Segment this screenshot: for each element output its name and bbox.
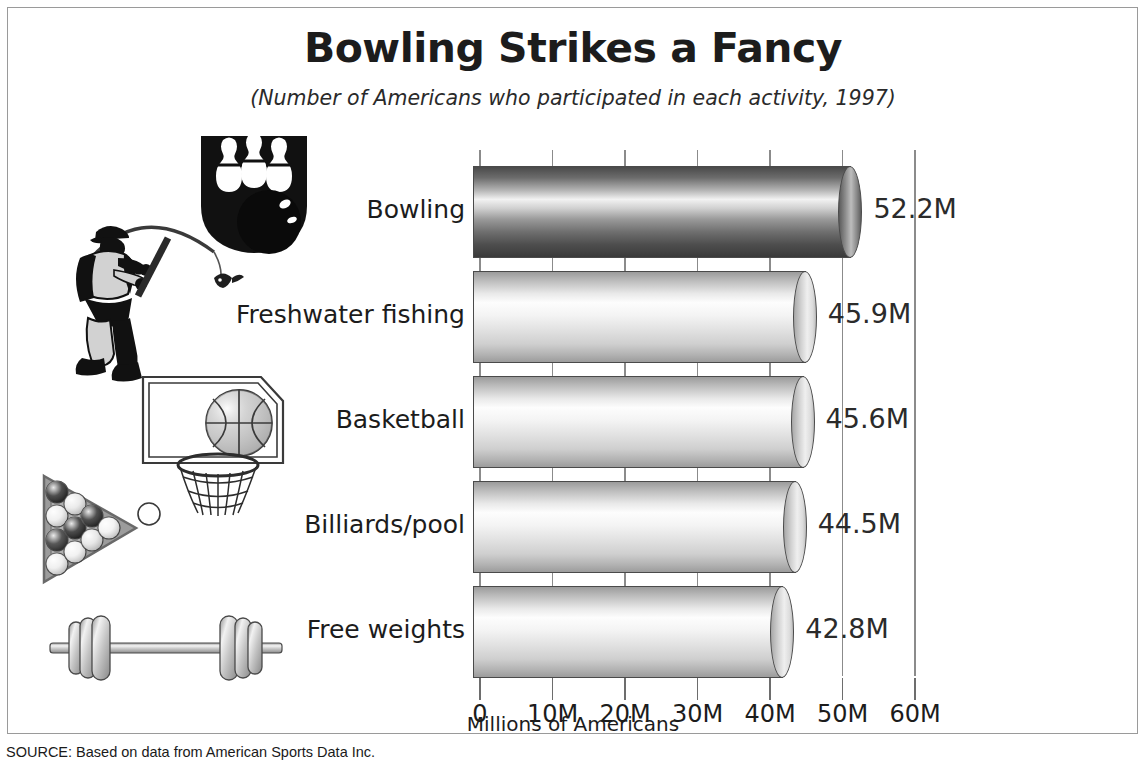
- tick-30M: [697, 678, 698, 700]
- billiards-rack-illustration: [24, 472, 169, 592]
- bar-body: [474, 482, 795, 572]
- tick-40M: [769, 678, 770, 700]
- fisherman-illustration: [18, 200, 248, 399]
- bar-billiards-pool[interactable]: [473, 481, 796, 573]
- value-label: 45.6M: [826, 403, 909, 434]
- value-label: 44.5M: [818, 508, 901, 539]
- source-note: SOURCE: Based on data from American Spor…: [6, 744, 375, 760]
- bar-body: [474, 377, 803, 467]
- value-label: 42.8M: [805, 613, 888, 644]
- tick-10M: [552, 678, 553, 700]
- bar-body: [474, 272, 805, 362]
- tick-20M: [624, 678, 625, 700]
- gridline-60M: [914, 150, 915, 676]
- bar-basketball[interactable]: [473, 376, 804, 468]
- tick-0: [479, 678, 480, 700]
- x-axis-label: Millions of Americans: [0, 712, 1146, 736]
- bar-end-cap: [783, 481, 807, 573]
- value-label: 45.9M: [828, 298, 911, 329]
- bar-body: [474, 587, 782, 677]
- bar-bowling[interactable]: [473, 166, 851, 258]
- bar-end-cap: [793, 271, 817, 363]
- bar-end-cap: [838, 166, 862, 258]
- tick-60M: [914, 678, 915, 700]
- bar-end-cap: [791, 376, 815, 468]
- bar-free-weights[interactable]: [473, 586, 783, 678]
- tick-50M: [842, 678, 843, 700]
- bar-freshwater-fishing[interactable]: [473, 271, 806, 363]
- bar-body: [474, 167, 850, 257]
- barbell-illustration: [22, 605, 307, 694]
- value-label: 52.2M: [873, 193, 956, 224]
- bar-end-cap: [770, 586, 794, 678]
